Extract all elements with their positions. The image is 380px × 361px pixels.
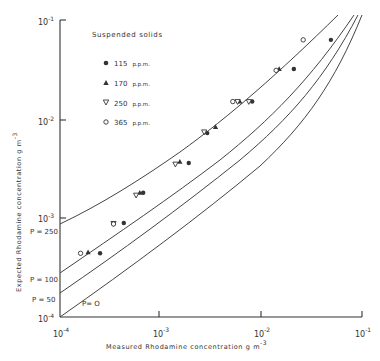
y-tick-label: 10-3 <box>38 212 54 224</box>
data-point <box>134 193 139 198</box>
data-point <box>98 251 102 255</box>
filled-circle-icon <box>104 61 109 66</box>
data-point <box>78 251 82 255</box>
data-point <box>329 38 333 42</box>
data-point <box>274 68 278 72</box>
y-tick-label: 10-4 <box>38 312 54 324</box>
curve-label-p250: P = 250 <box>30 228 58 236</box>
legend-item-365: 365p.p.m. <box>114 119 150 127</box>
curve-label-p50: P = 50 <box>32 296 55 304</box>
open-circle-icon <box>104 120 108 124</box>
x-tick-label: 10-1 <box>355 326 371 339</box>
filled-triangle-icon <box>103 80 108 85</box>
data-point <box>187 161 191 165</box>
curve-p0 <box>60 15 362 317</box>
x-tick-label: 10-3 <box>153 326 169 339</box>
curve-label-p0: P= O <box>82 300 100 308</box>
data-point <box>173 162 178 167</box>
y-tick-label: 10-2 <box>38 115 54 127</box>
curve-p50 <box>60 15 358 293</box>
data-points <box>78 38 333 256</box>
legend: Suspended solids 115p.p.m. 170p.p.m. 250… <box>92 31 163 127</box>
x-tick-label: 10-2 <box>254 326 270 339</box>
data-point <box>292 67 296 71</box>
legend-item-115: 115p.p.m. <box>114 60 150 68</box>
x-tick-label: 10-4 <box>53 326 69 339</box>
legend-title: Suspended solids <box>92 31 163 39</box>
data-point <box>301 38 305 42</box>
data-point <box>231 99 235 103</box>
x-tick-labels: 10-4 10-3 10-2 10-1 <box>53 326 371 339</box>
x-axis-title: Measured Rhodamine concentration g m-3 <box>106 339 267 351</box>
legend-item-170: 170p.p.m. <box>114 80 150 88</box>
data-point <box>111 222 115 226</box>
curve-label-p100: P = 100 <box>30 276 58 284</box>
legend-item-250: 250p.p.m. <box>114 100 150 108</box>
data-point <box>122 221 126 225</box>
model-curves <box>60 15 362 317</box>
chart-canvas: 10-1 10-2 10-3 10-4 10-4 10-3 10-2 10-1 … <box>0 0 380 361</box>
y-axis-title: Expected Rhodamine concentration g m-3 <box>11 132 23 292</box>
curve-p100 <box>60 15 354 273</box>
y-tick-label: 10-1 <box>38 15 54 27</box>
data-point <box>177 159 182 164</box>
open-triangle-down-icon <box>103 100 108 105</box>
